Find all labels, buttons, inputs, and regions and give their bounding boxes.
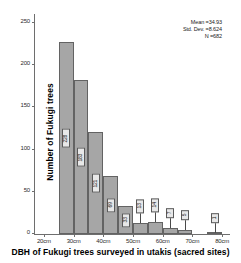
bar-value-label: 7 [166, 208, 174, 218]
x-tick [222, 234, 223, 237]
x-tick [163, 234, 164, 237]
bar-value-label: 69 [107, 198, 115, 212]
x-tick-label: 60cm [156, 238, 170, 244]
x-tick-label: 80cm [215, 238, 229, 244]
x-tick-label: 70cm [185, 238, 199, 244]
histogram-bar [148, 222, 163, 234]
y-tick [32, 233, 35, 234]
histogram-figure: Number of Fukugi trees 050100150200250 2… [0, 0, 241, 263]
y-tick [32, 149, 35, 150]
y-tick [32, 191, 35, 192]
x-tick [192, 234, 193, 237]
bar-value-label: 228 [62, 129, 70, 148]
statistics-annotation: Mean =34.93 Std. Dev. =8.624 N =682 [183, 19, 222, 40]
y-tick-label: 0 [27, 229, 30, 235]
x-tick-label: 20cm [37, 238, 51, 244]
bar-value-label: 1 [211, 213, 219, 223]
x-tick [44, 234, 45, 237]
y-tick-label: 250 [21, 18, 30, 24]
x-tick-label: 30cm [67, 238, 81, 244]
histogram-bar [178, 230, 193, 234]
bar-value-label: 13 [136, 199, 144, 213]
y-tick [32, 106, 35, 107]
label-leader-line [170, 218, 171, 228]
label-leader-line [155, 212, 156, 222]
y-tick [32, 64, 35, 65]
stat-n: N =682 [183, 33, 222, 40]
bar-value-label: 33 [122, 213, 130, 227]
stat-mean: Mean =34.93 [183, 19, 222, 26]
bar-value-label: 183 [77, 148, 85, 167]
x-tick [74, 234, 75, 237]
y-tick-label: 100 [21, 145, 30, 151]
histogram-bar [163, 228, 178, 234]
stat-std-dev: Std. Dev. =8.624 [183, 26, 222, 33]
bar-value-label: 5 [181, 210, 189, 220]
label-leader-line [185, 220, 186, 230]
bar-value-label: 14 [151, 198, 159, 212]
x-tick [103, 234, 104, 237]
label-leader-line [140, 213, 141, 223]
plot-area: 050100150200250 20cm30cm40cm50cm60cm70cm… [34, 14, 230, 235]
bar-value-label: 121 [92, 174, 100, 193]
y-tick-label: 200 [21, 60, 30, 66]
label-leader-line [215, 223, 216, 233]
y-tick-label: 50 [24, 187, 30, 193]
x-axis-title: DBH of Fukugi trees surveyed in utakis (… [0, 247, 241, 257]
histogram-bar [133, 223, 148, 234]
x-tick [133, 234, 134, 237]
y-tick [32, 22, 35, 23]
x-tick-label: 50cm [126, 238, 140, 244]
y-tick-label: 150 [21, 102, 30, 108]
x-tick-label: 40cm [96, 238, 110, 244]
